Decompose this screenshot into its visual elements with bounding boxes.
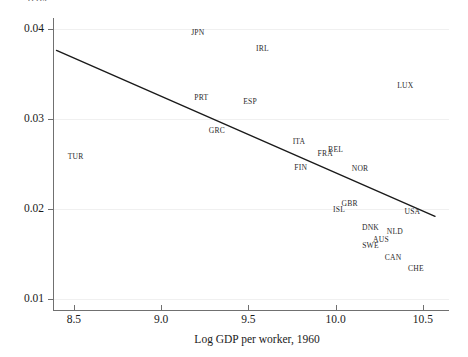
y-tick-label: 0.02: [0, 203, 44, 215]
point-label-esp: ESP: [243, 98, 257, 106]
x-tick-label: 8.5: [44, 314, 104, 326]
y-tick-label: 0.03: [0, 113, 44, 125]
x-tick-mark: [74, 305, 75, 311]
y-tick-label: 0.01: [0, 293, 44, 305]
gridline-y: [53, 29, 449, 30]
scatter-plot-figure: 0.04 0.010.020.030.04 8.59.09.510.010.5 …: [0, 0, 468, 357]
point-label-usa: USA: [404, 208, 420, 216]
x-tick-label: 9.0: [131, 314, 191, 326]
point-label-grc: GRC: [209, 127, 225, 135]
x-tick-mark: [336, 305, 337, 311]
gridline-y: [53, 119, 449, 120]
point-label-lux: LUX: [397, 82, 413, 90]
point-label-nld: NLD: [387, 228, 403, 236]
point-label-fin: FIN: [294, 164, 307, 172]
x-tick-mark: [423, 305, 424, 311]
truncated-top-label: 0.04: [28, 0, 47, 1]
gridline-y: [53, 209, 449, 210]
point-label-jpn: JPN: [191, 29, 204, 37]
point-label-nor: NOR: [352, 165, 369, 173]
x-axis-spine: [53, 310, 449, 311]
point-label-can: CAN: [385, 254, 402, 262]
point-label-swe: SWE: [362, 242, 379, 250]
point-label-tur: TUR: [68, 153, 84, 161]
y-tick-mark: [48, 209, 54, 210]
regression-line: [0, 0, 468, 357]
x-tick-label: 10.0: [306, 314, 366, 326]
gridline-y: [53, 299, 449, 300]
point-label-isl: ISL: [333, 206, 345, 214]
point-label-fra: FRA: [317, 150, 332, 158]
y-tick-label: 0.04: [0, 23, 44, 35]
point-label-irl: IRL: [256, 45, 269, 53]
y-tick-mark: [48, 119, 54, 120]
point-label-che: CHE: [408, 265, 424, 273]
point-label-dnk: DNK: [362, 224, 379, 232]
y-tick-mark: [48, 299, 54, 300]
point-label-ita: ITA: [293, 138, 306, 146]
x-tick-mark: [248, 305, 249, 311]
x-tick-label: 9.5: [218, 314, 278, 326]
y-axis-spine: [53, 18, 54, 310]
point-label-prt: PRT: [194, 94, 208, 102]
x-axis-title: Log GDP per worker, 1960: [0, 333, 468, 345]
y-tick-mark: [48, 29, 54, 30]
x-tick-mark: [161, 305, 162, 311]
x-tick-label: 10.5: [393, 314, 453, 326]
